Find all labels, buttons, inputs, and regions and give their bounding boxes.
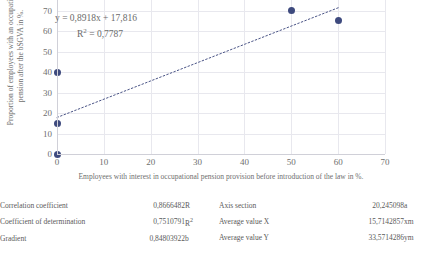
x-tick-label: 30 xyxy=(185,158,211,167)
y-tick-label: 30 xyxy=(30,89,52,98)
table-row: Correlation coefficient0,8666482R xyxy=(0,198,219,213)
stat-label: Average value X xyxy=(219,214,327,230)
x-tick-label: 0 xyxy=(44,158,70,167)
stat-symbol: ym xyxy=(404,230,438,246)
stat-value: 33,5714286 xyxy=(327,230,404,246)
stat-label: Gradient xyxy=(0,231,130,246)
y-tick-label: 70 xyxy=(30,7,52,16)
y-tick-label: 50 xyxy=(30,48,52,57)
table-row: Coefficient of determination0,7510791R2 xyxy=(0,213,219,231)
stat-value: 15,7142857 xyxy=(327,214,404,230)
stat-symbol: R xyxy=(185,198,219,213)
table-row: Average value Y33,5714286ym xyxy=(219,230,438,246)
x-tick-label: 20 xyxy=(138,158,164,167)
y-tick-label: 20 xyxy=(30,109,52,118)
stat-symbol: R2 xyxy=(185,213,219,231)
x-tick-label: 40 xyxy=(231,158,257,167)
x-axis-label: Employees with interest in occupational … xyxy=(57,172,385,181)
x-tick-label: 70 xyxy=(372,158,398,167)
stat-symbol: a xyxy=(404,198,438,214)
equation-text: y = 0,8918x + 17,816 xyxy=(55,13,137,23)
stat-label: Axis section xyxy=(219,198,327,214)
stat-value: 0,8666482 xyxy=(130,198,185,213)
table-row: Axis section20,245098a xyxy=(219,198,438,214)
stat-label: Average value Y xyxy=(219,230,327,246)
stat-value: 20,245098 xyxy=(327,198,404,214)
stat-label: Correlation coefficient xyxy=(0,198,130,213)
gridline-vertical xyxy=(385,0,386,154)
stat-value: 0,84803922 xyxy=(130,231,185,246)
y-axis-label: Proportion of employees with an occupati… xyxy=(6,0,26,136)
stat-symbol: b xyxy=(185,231,219,246)
x-axis-line xyxy=(57,154,385,155)
y-tick-label: 40 xyxy=(30,68,52,77)
table-row: Gradient0,84803922b xyxy=(0,231,219,246)
y-tick-label: 10 xyxy=(30,130,52,139)
scatter-chart: 010203040506070 010203040506070 y = 0,89… xyxy=(0,0,438,190)
table-row: Average value X15,7142857xm xyxy=(219,214,438,230)
trendline-equation-annotation: y = 0,8918x + 17,816 R2 = 0,7787 xyxy=(55,12,137,41)
stat-symbol: xm xyxy=(404,214,438,230)
r-squared-text: R2 = 0,7787 xyxy=(55,25,137,41)
statistics-table-left: Correlation coefficient0,8666482RCoeffic… xyxy=(0,198,219,246)
y-tick-label: 60 xyxy=(30,27,52,36)
statistics-table-right: Axis section20,245098aAverage value X15,… xyxy=(219,198,438,246)
x-tick-label: 60 xyxy=(325,158,351,167)
stat-label: Coefficient of determination xyxy=(0,213,130,231)
stat-value: 0,7510791 xyxy=(130,213,185,231)
x-tick-label: 10 xyxy=(91,158,117,167)
statistics-tables: Correlation coefficient0,8666482RCoeffic… xyxy=(0,198,438,246)
x-tick-label: 50 xyxy=(278,158,304,167)
